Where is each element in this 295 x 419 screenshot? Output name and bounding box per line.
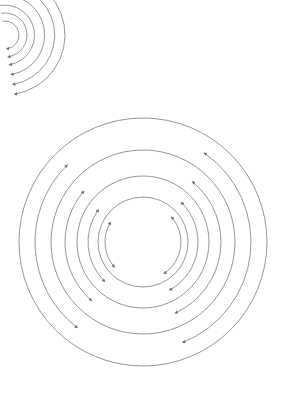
arrow-arc-right <box>165 218 181 274</box>
arrow-arc-right <box>171 203 198 290</box>
corner-arrow-arc <box>1 13 27 57</box>
ring-circle <box>77 176 209 308</box>
arrow-arc-right <box>183 154 251 343</box>
ring-circle <box>98 197 188 287</box>
main-cluster <box>19 118 267 366</box>
arrow-arc-left <box>88 210 104 280</box>
corner-cluster <box>0 0 65 94</box>
corner-arrow-arc <box>0 5 35 64</box>
corner-arrow-arc <box>3 21 19 49</box>
corner-arrow-arc <box>0 0 55 84</box>
ring-circle <box>19 118 267 366</box>
arrow-arc-left <box>65 192 91 300</box>
arrow-arc-right <box>176 182 221 312</box>
arrow-arc-left <box>35 166 77 327</box>
concentric-arrows-diagram <box>0 0 295 419</box>
arrow-arc-left <box>105 223 114 266</box>
ring-circle <box>51 150 235 334</box>
